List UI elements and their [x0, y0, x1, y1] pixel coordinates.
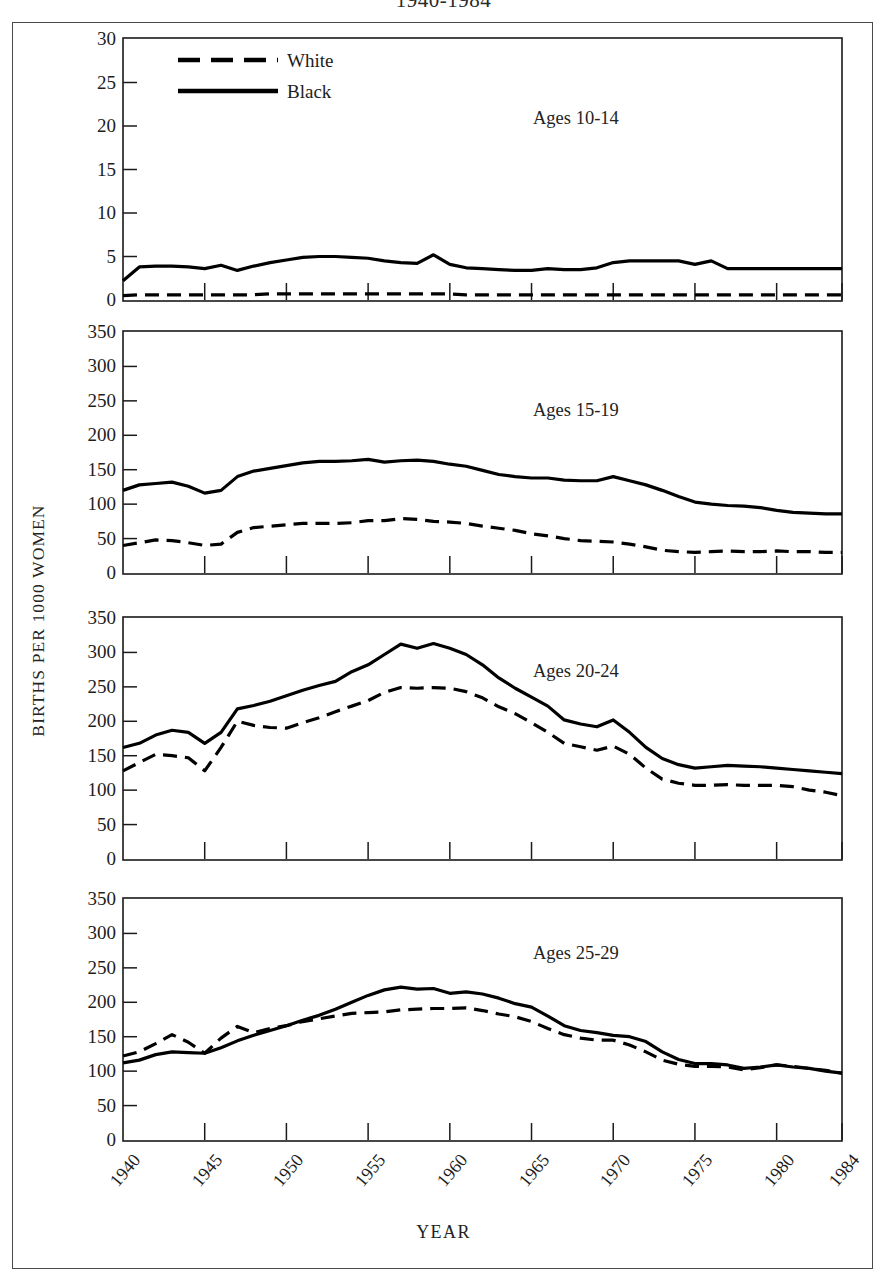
figure-root: 1940-1984 BIRTHS PER 1000 WOMEN YEAR 051… [0, 0, 887, 1283]
y-tick-label: 300 [88, 923, 117, 942]
y-tick-label: 50 [97, 529, 116, 548]
y-tick-label: 100 [88, 1061, 117, 1080]
y-tick-label: 200 [88, 711, 117, 730]
y-tick-label: 5 [107, 247, 117, 266]
legend-label-black: Black [287, 81, 331, 103]
y-axis-title: BIRTHS PER 1000 WOMEN [28, 411, 49, 831]
y-ticks-ages-20-24: 050100150200250300350 [70, 616, 116, 861]
series-white [123, 1008, 842, 1073]
y-tick-label: 10 [97, 203, 116, 222]
y-tick-label: 350 [88, 322, 117, 341]
y-tick-label: 25 [97, 73, 116, 92]
y-tick-label: 20 [97, 116, 116, 135]
y-tick-label: 200 [88, 425, 117, 444]
x-axis-title: YEAR [0, 1222, 887, 1243]
y-tick-label: 250 [88, 958, 117, 977]
y-tick-label: 0 [107, 563, 117, 582]
y-tick-label: 100 [88, 780, 117, 799]
figure-title: 1940-1984 [0, 0, 887, 13]
legend-label-white: White [287, 50, 333, 72]
series-white [123, 688, 842, 796]
y-tick-label: 50 [97, 1096, 116, 1115]
series-black [123, 255, 842, 281]
series-black [123, 643, 842, 773]
panel-label-ages-25-29: Ages 25-29 [533, 943, 619, 964]
y-tick-label: 350 [88, 889, 117, 908]
panel-ages-15-19 [122, 330, 843, 575]
y-ticks-ages-10-14: 051015202530 [70, 37, 116, 302]
y-tick-label: 350 [88, 608, 117, 627]
y-tick-label: 300 [88, 642, 117, 661]
plot-area-ages-20-24 [122, 616, 843, 861]
y-tick-label: 0 [107, 1130, 117, 1149]
y-tick-label: 30 [97, 29, 116, 48]
y-tick-label: 100 [88, 494, 117, 513]
y-tick-label: 150 [88, 1027, 117, 1046]
y-tick-label: 150 [88, 460, 117, 479]
y-tick-label: 50 [97, 815, 116, 834]
plot-area-ages-15-19 [122, 330, 843, 575]
y-tick-label: 300 [88, 356, 117, 375]
legend-swatches [178, 48, 378, 118]
y-tick-label: 200 [88, 992, 117, 1011]
y-ticks-ages-25-29: 050100150200250300350 [70, 897, 116, 1142]
panel-ages-25-29 [122, 897, 843, 1142]
y-tick-label: 250 [88, 391, 117, 410]
series-black [123, 459, 842, 513]
series-black [123, 987, 842, 1073]
panel-label-ages-20-24: Ages 20-24 [533, 661, 619, 682]
series-white [123, 294, 842, 296]
y-tick-label: 150 [88, 746, 117, 765]
panel-ages-20-24 [122, 616, 843, 861]
panel-label-ages-15-19: Ages 15-19 [533, 400, 619, 421]
y-tick-label: 250 [88, 677, 117, 696]
panel-label-ages-10-14: Ages 10-14 [533, 108, 619, 129]
y-tick-label: 0 [107, 290, 117, 309]
plot-area-ages-25-29 [122, 897, 843, 1142]
y-tick-label: 0 [107, 849, 117, 868]
series-white [123, 519, 842, 553]
y-tick-label: 15 [97, 160, 116, 179]
y-ticks-ages-15-19: 050100150200250300350 [70, 330, 116, 575]
